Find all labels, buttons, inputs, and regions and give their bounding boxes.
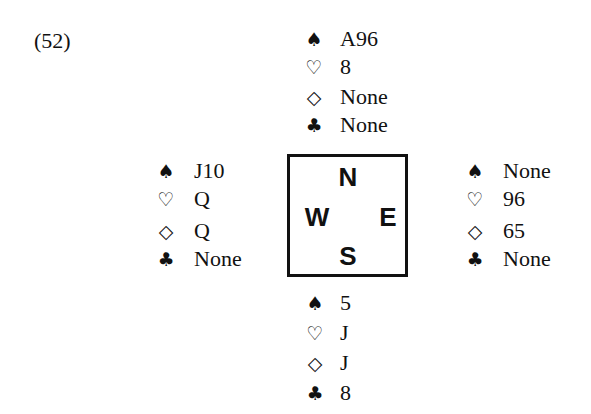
north-clubs-holding: None <box>340 112 388 138</box>
west-diamonds-holding: Q <box>194 218 210 244</box>
south-hearts-holding: J <box>340 320 349 346</box>
diamond-icon: ◇ <box>156 218 176 244</box>
west-hearts-holding: Q <box>194 186 210 212</box>
club-icon: ♣ <box>305 380 325 406</box>
east-diamonds-holding: 65 <box>503 218 525 244</box>
west-spades-holding: J10 <box>194 158 225 184</box>
compass-south-label: S <box>333 242 363 270</box>
club-icon: ♣ <box>156 246 176 272</box>
west-clubs-holding: None <box>194 246 242 272</box>
spade-icon: ♠ <box>304 26 324 52</box>
north-diamonds-holding: None <box>340 84 388 110</box>
heart-icon: ♡ <box>304 54 324 80</box>
heart-icon: ♡ <box>305 320 325 346</box>
club-icon: ♣ <box>465 246 485 272</box>
heart-icon: ♡ <box>465 186 485 212</box>
north-hearts-holding: 8 <box>340 54 351 80</box>
diamond-icon: ◇ <box>305 350 325 376</box>
east-spades-holding: None <box>503 158 551 184</box>
problem-number: (52) <box>34 28 71 54</box>
spade-icon: ♠ <box>156 158 176 184</box>
south-diamonds-holding: J <box>340 350 349 376</box>
club-icon: ♣ <box>304 112 324 138</box>
spade-icon: ♠ <box>305 290 325 316</box>
east-clubs-holding: None <box>503 246 551 272</box>
compass-north-label: N <box>333 163 363 191</box>
east-hearts-holding: 96 <box>503 186 525 212</box>
diamond-icon: ◇ <box>304 84 324 110</box>
south-spades-holding: 5 <box>340 290 351 316</box>
spade-icon: ♠ <box>465 158 485 184</box>
south-clubs-holding: 8 <box>340 380 351 406</box>
compass-east-label: E <box>373 203 403 231</box>
compass-west-label: W <box>302 203 332 231</box>
compass-table-diagram: N W E S <box>287 154 408 277</box>
north-spades-holding: A96 <box>340 26 378 52</box>
heart-icon: ♡ <box>156 186 176 212</box>
diamond-icon: ◇ <box>465 218 485 244</box>
